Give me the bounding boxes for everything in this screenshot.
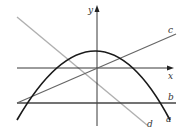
label-d: d <box>147 119 153 129</box>
x-axis-label: x <box>168 71 173 81</box>
y-axis-arrow-icon <box>95 5 100 12</box>
graph-diagram: y x c b a d <box>0 0 183 135</box>
label-b: b <box>168 92 174 102</box>
y-axis-label: y <box>87 5 94 15</box>
label-a: a <box>166 114 171 124</box>
x-axis-arrow-icon <box>167 66 174 71</box>
line-d <box>17 17 147 125</box>
parabola-a <box>17 51 170 120</box>
line-c <box>17 34 176 103</box>
label-c: c <box>168 25 173 35</box>
